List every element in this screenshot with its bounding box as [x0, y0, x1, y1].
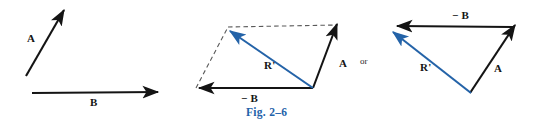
dashed-side-top	[228, 25, 337, 27]
arrow-vector-neg-b-right	[397, 26, 513, 27]
label-vector-a-left: A	[27, 33, 35, 44]
label-or-connector: or	[360, 57, 368, 66]
label-resultant-right: R'	[420, 62, 431, 73]
arrow-vector-a-right	[470, 25, 515, 93]
label-vector-neg-b-right: − B	[452, 10, 469, 21]
panel-triangle-method	[393, 25, 515, 93]
figure-caption: Fig. 2–6	[246, 107, 287, 119]
arrow-vector-b-left	[32, 92, 158, 93]
panel-given-vectors	[26, 10, 158, 93]
panel-parallelogram-method	[196, 24, 337, 88]
arrow-vector-a-middle	[313, 24, 337, 88]
label-vector-b-left: B	[90, 97, 98, 108]
label-resultant-middle: R'	[264, 60, 275, 71]
label-vector-a-middle: A	[339, 58, 347, 69]
label-vector-a-right: A	[494, 63, 502, 74]
arrow-resultant-right	[393, 32, 471, 93]
dashed-side-left	[196, 27, 228, 88]
figure-2-6: A B R' − B A or − B R' A Fig. 2–6	[0, 0, 533, 127]
label-vector-neg-b-middle: − B	[241, 93, 258, 104]
